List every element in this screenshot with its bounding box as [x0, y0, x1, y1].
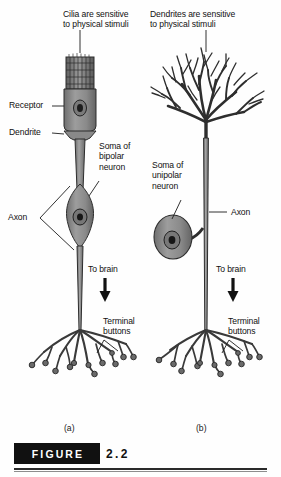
panel-letter-b: (b)	[196, 423, 207, 433]
soma-unipolar	[154, 215, 203, 259]
label-terminal-buttons-b: Terminal buttons	[228, 316, 281, 337]
terminal-buttons-a	[29, 351, 136, 377]
to-brain-arrow-b	[228, 278, 239, 302]
receptor-cell-body	[64, 89, 96, 134]
terminal-leader-a	[97, 340, 118, 353]
axon-upper-segment	[75, 139, 85, 190]
axon-lower-segment	[77, 246, 83, 330]
label-dendrites-note: Dendrites are sensitive to physical stim…	[150, 9, 275, 30]
label-axon-a: Axon	[8, 212, 27, 222]
caption-rule	[14, 468, 267, 470]
cilia	[66, 53, 94, 89]
dendritic-tree-b	[151, 48, 264, 140]
figure-caption: FIGURE 2.2	[14, 443, 267, 477]
caption-rule-thin	[14, 471, 267, 472]
label-to-brain-b: To brain	[216, 264, 246, 274]
soma-bipolar	[67, 184, 94, 248]
panel-letter-a: (a)	[64, 423, 75, 433]
label-to-brain-a: To brain	[88, 264, 118, 274]
neuron-diagram	[0, 0, 281, 440]
caption-label: FIGURE	[14, 443, 100, 464]
label-terminal-buttons-a: Terminal buttons	[103, 316, 157, 337]
label-axon-b: Axon	[231, 207, 250, 217]
terminal-buttons-b	[156, 351, 262, 377]
label-soma-bipolar: Soma of bipolar neuron	[99, 141, 155, 172]
figure-container: Cilia are sensitive to physical stimuli …	[0, 0, 281, 477]
caption-number: 2.2	[106, 443, 130, 464]
label-receptor: Receptor	[9, 100, 43, 110]
to-brain-arrow-a	[100, 278, 111, 302]
label-soma-unipolar: Soma of unipolar neuron	[152, 160, 206, 191]
label-dendrite: Dendrite	[9, 127, 41, 137]
